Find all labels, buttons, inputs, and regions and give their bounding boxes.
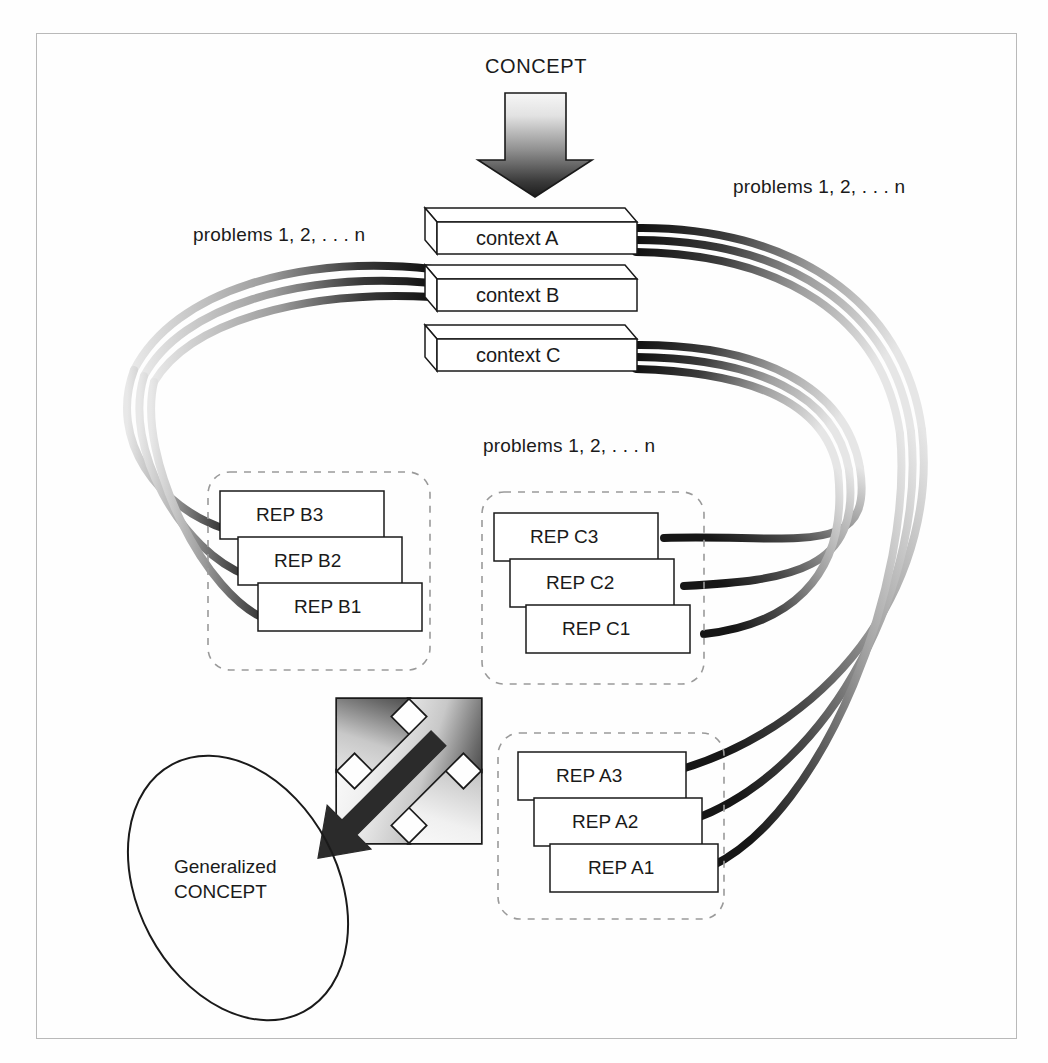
rep-c3-label: REP C3	[530, 526, 598, 548]
rep-b2-label: REP B2	[274, 550, 341, 572]
rep-a3-label: REP A3	[556, 765, 622, 787]
generalized-concept-line1: Generalized	[174, 855, 276, 879]
rep-a1-label: REP A1	[588, 857, 654, 879]
generalized-concept-line2: CONCEPT	[174, 880, 267, 904]
diagram-canvas	[0, 0, 1048, 1063]
rep-b1-label: REP B1	[294, 596, 361, 618]
context-c-label: context C	[476, 344, 560, 367]
context-a-label: context A	[476, 227, 558, 250]
rep-b3-label: REP B3	[256, 504, 323, 526]
rep-a2-label: REP A2	[572, 811, 638, 833]
rep-c1-label: REP C1	[562, 618, 630, 640]
context-b-label: context B	[476, 284, 559, 307]
problems-label-left: problems 1, 2, . . . n	[193, 224, 365, 246]
problems-label-middle: problems 1, 2, . . . n	[483, 435, 655, 457]
concept-down-arrow	[478, 93, 592, 197]
rep-c2-label: REP C2	[546, 572, 614, 594]
concept-label: CONCEPT	[485, 55, 587, 78]
problems-label-right: problems 1, 2, . . . n	[733, 176, 905, 198]
figure-page: CONCEPT problems 1, 2, . . . n problems …	[0, 0, 1048, 1063]
